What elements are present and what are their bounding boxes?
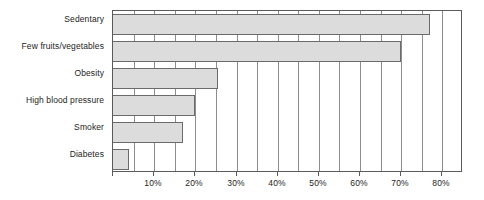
- gridline: [442, 11, 443, 171]
- gridline: [381, 11, 382, 171]
- gridline: [401, 11, 402, 171]
- gridline: [195, 11, 196, 171]
- plot-area: [112, 10, 462, 172]
- gridline: [216, 11, 217, 171]
- gridline: [319, 11, 320, 171]
- x-tick-mark: [194, 172, 195, 176]
- gridline: [298, 11, 299, 171]
- gridline: [175, 11, 176, 171]
- x-tick-label: 80%: [421, 178, 461, 189]
- bar-chart: Sedentary Few fruits/vegetables Obesity …: [0, 0, 484, 200]
- x-tick-label: 50%: [298, 178, 338, 189]
- bar-diabetes: [112, 149, 129, 170]
- bar-sedentary: [112, 14, 430, 35]
- x-tick-label: 30%: [216, 178, 256, 189]
- x-tick-mark: [441, 172, 442, 176]
- x-tick-mark: [400, 172, 401, 176]
- gridline: [134, 11, 135, 171]
- gridline: [237, 11, 238, 171]
- bar-few-fruits-vegetables: [112, 41, 401, 62]
- gridline: [257, 11, 258, 171]
- x-tick-label: 10%: [133, 178, 173, 189]
- x-tick-label: 70%: [380, 178, 420, 189]
- gridline: [278, 11, 279, 171]
- x-tick-mark: [318, 172, 319, 176]
- bar-high-blood-pressure: [112, 95, 195, 116]
- gridline: [360, 11, 361, 171]
- category-label-few-fruits-vegetables: Few fruits/vegetables: [0, 41, 104, 51]
- x-axis: 10%20%30%40%50%60%70%80%: [112, 172, 462, 200]
- x-tick-mark: [359, 172, 360, 176]
- bar-smoker: [112, 122, 183, 143]
- category-label-smoker: Smoker: [0, 122, 104, 132]
- category-label-diabetes: Diabetes: [0, 149, 104, 159]
- gridline: [422, 11, 423, 171]
- x-tick-label: 40%: [257, 178, 297, 189]
- x-tick-label: 20%: [174, 178, 214, 189]
- x-tick-mark: [112, 172, 113, 176]
- gridline: [339, 11, 340, 171]
- gridline: [154, 11, 155, 171]
- category-label-high-blood-pressure: High blood pressure: [0, 95, 104, 105]
- category-label-sedentary: Sedentary: [0, 14, 104, 24]
- x-tick-label: 60%: [339, 178, 379, 189]
- bar-obesity: [112, 68, 218, 89]
- x-tick-mark: [236, 172, 237, 176]
- x-tick-mark: [153, 172, 154, 176]
- category-label-obesity: Obesity: [0, 68, 104, 78]
- category-axis: Sedentary Few fruits/vegetables Obesity …: [0, 10, 108, 172]
- x-tick-mark: [277, 172, 278, 176]
